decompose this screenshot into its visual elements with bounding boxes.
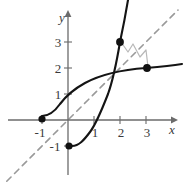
x-tick-label-minus1: -1 bbox=[35, 125, 46, 140]
x-axis-label: x bbox=[168, 122, 175, 137]
y-tick-label-minus1: -1 bbox=[50, 139, 61, 154]
identity-line-y-equals-x bbox=[0, 10, 178, 183]
data-point-minus1-0 bbox=[38, 115, 45, 122]
function-inverse-graph: y x -1 1 2 3 1 2 3 -1 bbox=[0, 0, 185, 183]
graph-canvas: y x -1 1 2 3 1 2 3 -1 bbox=[0, 0, 185, 183]
x-tick-label-2: 2 bbox=[118, 125, 125, 140]
y-tick-label-3: 3 bbox=[55, 35, 62, 50]
curve-f-inverse bbox=[42, 64, 182, 116]
x-tick-label-1: 1 bbox=[92, 125, 99, 140]
data-point-3-2 bbox=[143, 64, 151, 72]
y-tick-label-2: 2 bbox=[55, 61, 62, 76]
data-point-0-minus1 bbox=[65, 142, 72, 149]
data-point-2-3 bbox=[116, 38, 124, 46]
y-axis-label: y bbox=[57, 10, 65, 25]
y-axis-arrowhead bbox=[65, 10, 72, 17]
x-tick-label-3: 3 bbox=[144, 125, 151, 140]
y-tick-label-1: 1 bbox=[55, 87, 62, 102]
